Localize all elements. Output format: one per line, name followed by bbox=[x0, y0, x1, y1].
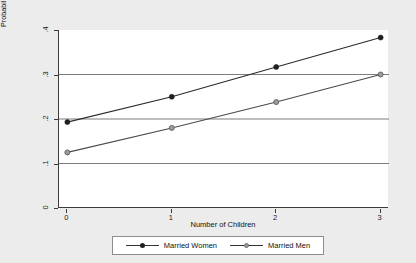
legend-item-married-women[interactable]: Married Women bbox=[126, 241, 217, 251]
y-tick-mark bbox=[54, 208, 58, 209]
x-axis-title: Number of Children bbox=[58, 220, 388, 229]
y-tick-label: .2 bbox=[41, 112, 50, 126]
legend-key-open-circle-icon bbox=[230, 241, 263, 251]
x-tick-mark bbox=[275, 209, 276, 213]
y-tick-label: 0 bbox=[41, 201, 50, 215]
legend-label-married-men: Married Men bbox=[263, 241, 310, 250]
data-point bbox=[169, 94, 174, 99]
legend-key-filled-circle-icon bbox=[126, 241, 159, 251]
data-point bbox=[169, 125, 174, 130]
chart-screenshot: Probability of No Articles 0.1.2.3.4 012… bbox=[0, 0, 416, 263]
series-line-0 bbox=[67, 38, 380, 123]
y-tick-label: .3 bbox=[41, 67, 50, 81]
data-point bbox=[274, 64, 279, 69]
plot-area bbox=[58, 30, 388, 208]
data-point bbox=[378, 72, 383, 77]
chart-legend: Married Women Married Men bbox=[112, 236, 324, 255]
data-point bbox=[65, 120, 70, 125]
data-point bbox=[274, 100, 279, 105]
y-tick-label: .1 bbox=[41, 156, 50, 170]
x-tick-mark bbox=[171, 209, 172, 213]
data-point bbox=[378, 35, 383, 40]
series-line-1 bbox=[67, 75, 380, 153]
legend-item-married-men[interactable]: Married Men bbox=[230, 241, 310, 251]
x-tick-mark bbox=[66, 209, 67, 213]
y-axis-title: Probability of No Articles bbox=[0, 0, 8, 68]
graph-region: Probability of No Articles 0.1.2.3.4 012… bbox=[8, 8, 408, 255]
data-point bbox=[65, 150, 70, 155]
legend-label-married-women: Married Women bbox=[159, 241, 217, 250]
y-tick-label: .4 bbox=[41, 23, 50, 37]
plot-canvas bbox=[59, 30, 389, 208]
x-tick-mark bbox=[380, 209, 381, 213]
